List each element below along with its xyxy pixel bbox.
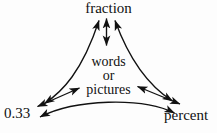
node-percent: percent (164, 108, 208, 123)
node-center-line-or: or (0, 69, 217, 83)
node-decimal-label: 0.33 (4, 105, 30, 121)
node-fraction-label: fraction (85, 0, 132, 16)
node-center-line-words: words (0, 55, 217, 69)
node-center-words-or-pictures: words or pictures (0, 55, 217, 97)
arrow-decimal-percent (40, 102, 175, 117)
representations-diagram: fraction words or pictures 0.33 percent (0, 0, 217, 133)
node-decimal: 0.33 (4, 106, 30, 121)
node-center-line-pictures: pictures (0, 83, 217, 97)
node-percent-label: percent (164, 107, 208, 123)
node-fraction: fraction (0, 1, 217, 16)
